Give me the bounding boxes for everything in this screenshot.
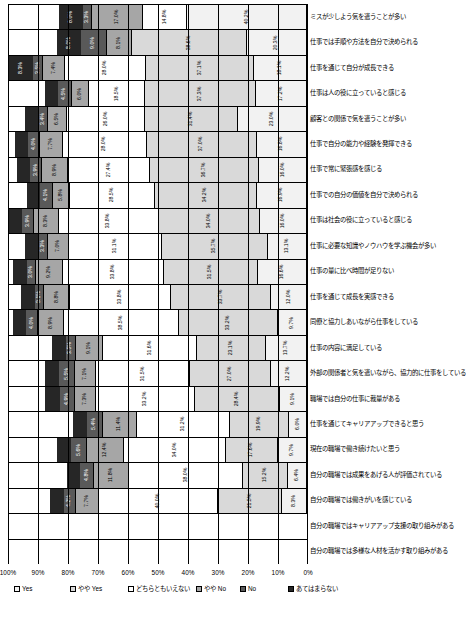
bar-segment: 9.7%: [278, 438, 307, 462]
category-label: 職場では自分の仕事に裁量がある: [310, 395, 400, 401]
bar-segment: 9.2%: [36, 260, 63, 284]
bar-segment: [13, 310, 26, 334]
category-label: 仕事を通じて成長を実感できる: [310, 294, 394, 300]
bar-segment: [25, 107, 38, 131]
segment-value-label: 12.0%: [286, 290, 291, 305]
bar-segment: 3.4%: [38, 107, 48, 131]
bar-segment: 13.7%: [266, 336, 307, 360]
segment-value-label: 4.0%: [31, 139, 36, 151]
bar-segment: [45, 387, 60, 411]
segment-value-label: 9.7%: [289, 317, 294, 329]
segment-value-label: 31.6%: [147, 341, 152, 356]
segment-value-label: 31.5%: [140, 366, 145, 381]
segment-value-label: 34.0%: [206, 213, 211, 228]
segment-value-label: 4.0%: [29, 317, 34, 329]
gridline: [278, 4, 279, 564]
bar-segment: 20.3%: [247, 30, 307, 54]
segment-value-label: 8.3%: [292, 495, 297, 507]
legend-item: やや No: [196, 586, 226, 592]
category-label: 仕事に必要な知識やノウハウを学ぶ機会が多い: [310, 243, 436, 249]
category-label: 自分の職場では働きがいを感じている: [310, 497, 412, 503]
gridline: [188, 4, 189, 564]
segment-value-label: 14.8%: [162, 10, 167, 25]
segment-value-label: 33.2%: [226, 315, 231, 330]
segment-value-label: 17.6%: [249, 443, 254, 458]
bar-segment: 9.1%: [76, 336, 103, 360]
bar-segment: [52, 336, 65, 360]
bar-segment: 7.3%: [75, 387, 97, 411]
segment-value-label: 15.2%: [262, 468, 267, 483]
segment-value-label: 6.0%: [295, 419, 300, 431]
bar-segment: 3.1%: [35, 285, 44, 309]
legend-swatch: [288, 586, 294, 592]
segment-value-label: 37.0%: [199, 137, 204, 152]
bar-segment: [45, 361, 58, 385]
bar-segment: 34.0%: [159, 209, 260, 233]
bar-segment: 7.1%: [75, 361, 96, 385]
bar-segment: 11.4%: [103, 412, 137, 436]
bar-segment: 36.7%: [150, 158, 259, 182]
bar-segment: 28.5%: [70, 183, 155, 207]
segment-value-label: 36.7%: [202, 163, 207, 178]
bar-segment: 9.7%: [278, 310, 307, 334]
bar-segment: [45, 81, 58, 105]
segment-value-label: 7.7%: [49, 139, 54, 151]
bar-segment: [50, 489, 63, 513]
legend-swatch: [128, 586, 134, 592]
axis-tick-label: 50%: [152, 570, 165, 576]
category-label: 自分の職場ではキャリアアップ支援の取り組みがある: [310, 523, 454, 529]
axis-tick-label: 60%: [122, 570, 135, 576]
bar-segment: 4.8%: [80, 463, 94, 487]
legend-label: Yes: [22, 586, 32, 592]
bar-segment: 33.8%: [63, 260, 164, 284]
bar-segment: 28.0%: [65, 56, 146, 80]
legend-item: やや Yes: [70, 586, 102, 592]
segment-value-label: 7.3%: [82, 393, 87, 405]
bar-segment: 3.9%: [22, 209, 34, 233]
bar-segment: [13, 260, 26, 284]
bar-segment: 33.2%: [96, 387, 195, 411]
bar-segment: 8.9%: [38, 310, 65, 334]
bar-segment: 12.0%: [271, 285, 307, 309]
bar-segment: [15, 132, 28, 156]
segment-value-label: 31.1%: [112, 239, 117, 254]
bar-segment: 16.8%: [257, 132, 307, 156]
segment-value-label: 35.7%: [212, 239, 217, 254]
segment-value-label: 12.4%: [103, 443, 108, 458]
bar-segment: 31.5%: [96, 361, 190, 385]
bar-segment: 33.7%: [171, 285, 271, 309]
axis-tick-label: 40%: [182, 570, 195, 576]
segment-value-label: 3.4%: [40, 113, 45, 125]
bar-segment: 3.3%: [83, 5, 93, 29]
bar-segment: 12.4%: [87, 438, 124, 462]
bar-segment: 31.1%: [69, 234, 162, 258]
category-label: 同僚と協力しあいながら仕事をしている: [310, 319, 418, 325]
segment-value-label: 5.6%: [76, 444, 81, 456]
segment-value-label: 16.6%: [279, 264, 284, 279]
bar-segment: 16.6%: [258, 260, 307, 284]
bar-segment: 21.5%: [218, 489, 282, 513]
bar-segment: 31.6%: [103, 336, 197, 360]
segment-value-label: 16.0%: [280, 213, 285, 228]
segment-value-label: 9.7%: [289, 444, 294, 456]
segment-value-label: 6.4%: [294, 469, 299, 481]
bar-segment: 27.0%: [190, 361, 270, 385]
bar-segment: 5.6%: [71, 438, 88, 462]
category-label: 仕事を通じてキャリアアップできると思う: [310, 421, 424, 427]
legend-swatch: [196, 586, 202, 592]
segment-value-label: 16.9%: [279, 188, 284, 203]
bar-segment: 7.7%: [76, 489, 99, 513]
gridline: [38, 4, 39, 564]
segment-value-label: 33.8%: [106, 213, 111, 228]
legend-label: やや No: [204, 586, 226, 592]
bar-segment: 5.5%: [59, 361, 75, 385]
bar-segment: 7.0%: [48, 234, 69, 258]
category-label: 現在の職場で働き続けたいと思う: [310, 446, 400, 452]
segment-value-label: 28.0%: [103, 61, 108, 76]
segment-value-label: 8.1%: [116, 37, 121, 49]
bar-segment: 16.9%: [257, 183, 307, 207]
segment-value-label: 9.2%: [46, 266, 51, 278]
gridline: [158, 4, 159, 564]
bar-segment: 34.0%: [124, 438, 225, 462]
